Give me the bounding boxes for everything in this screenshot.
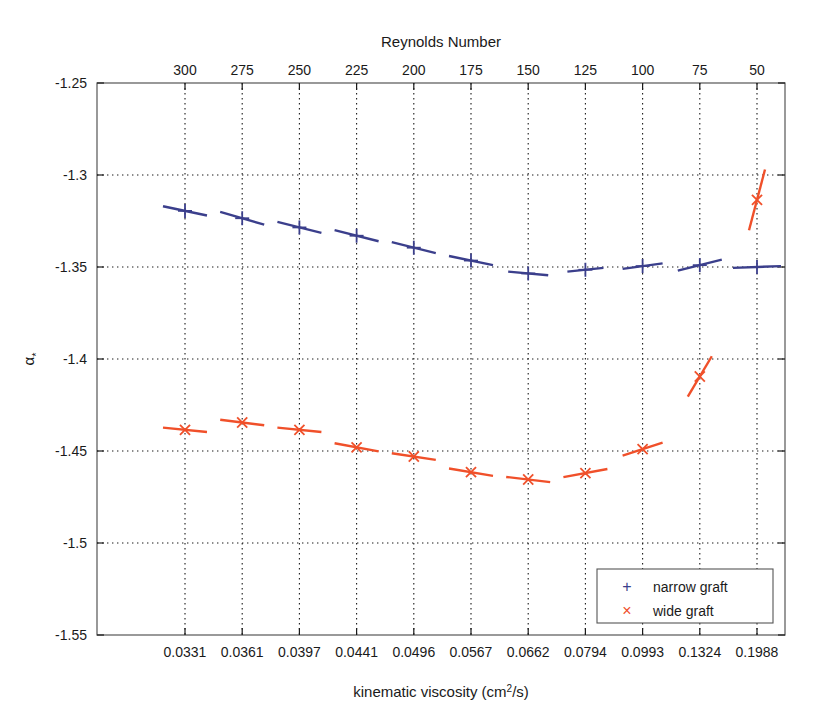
figure-container: 0.03310.03610.03970.04410.04960.05670.06… xyxy=(0,0,825,722)
xtick-label-top: 225 xyxy=(345,62,369,78)
xtick-label-bottom: 0.0567 xyxy=(450,644,493,660)
xtick-label-top: 125 xyxy=(574,62,598,78)
ytick-label: -1.5 xyxy=(63,535,87,551)
legend-label: wide graft xyxy=(652,603,714,619)
xtick-label-bottom: 0.0662 xyxy=(507,644,550,660)
ytick-label: -1.55 xyxy=(55,627,87,643)
xtick-label-top: 200 xyxy=(402,62,426,78)
xtick-label-bottom: 0.0794 xyxy=(564,644,607,660)
x-axis-title: kinematic viscosity (cm2/s) xyxy=(353,683,529,701)
y-axis-title: α* xyxy=(20,352,42,366)
xtick-label-bottom: 0.1988 xyxy=(736,644,779,660)
legend-plus-marker-icon: + xyxy=(622,578,631,595)
xtick-label-top: 300 xyxy=(173,62,197,78)
xtick-label-top: 275 xyxy=(231,62,255,78)
xtick-label-bottom: 0.0441 xyxy=(335,644,378,660)
ytick-label: -1.25 xyxy=(55,75,87,91)
xtick-label-bottom: 0.0331 xyxy=(164,644,207,660)
xtick-label-top: 100 xyxy=(631,62,655,78)
xtick-label-top: 250 xyxy=(288,62,312,78)
legend-label: narrow graft xyxy=(653,579,728,595)
xtick-label-bottom: 0.0361 xyxy=(221,644,264,660)
xtick-label-bottom: 0.0496 xyxy=(392,644,435,660)
legend-cross-marker-icon: × xyxy=(622,602,631,619)
xtick-label-top: 150 xyxy=(517,62,541,78)
ytick-label: -1.45 xyxy=(55,443,87,459)
ytick-label: -1.4 xyxy=(63,351,87,367)
xtick-label-top: 175 xyxy=(459,62,483,78)
ytick-label: -1.35 xyxy=(55,259,87,275)
xtick-label-top: 50 xyxy=(749,62,765,78)
plot-frame xyxy=(97,83,785,635)
xtick-label-top: 75 xyxy=(692,62,708,78)
xtick-label-bottom: 0.0397 xyxy=(278,644,321,660)
top-axis-title: Reynolds Number xyxy=(381,33,501,50)
ytick-label: -1.3 xyxy=(63,167,87,183)
xtick-label-bottom: 0.1324 xyxy=(678,644,721,660)
chart-canvas: 0.03310.03610.03970.04410.04960.05670.06… xyxy=(0,0,825,722)
xtick-label-bottom: 0.0993 xyxy=(621,644,664,660)
